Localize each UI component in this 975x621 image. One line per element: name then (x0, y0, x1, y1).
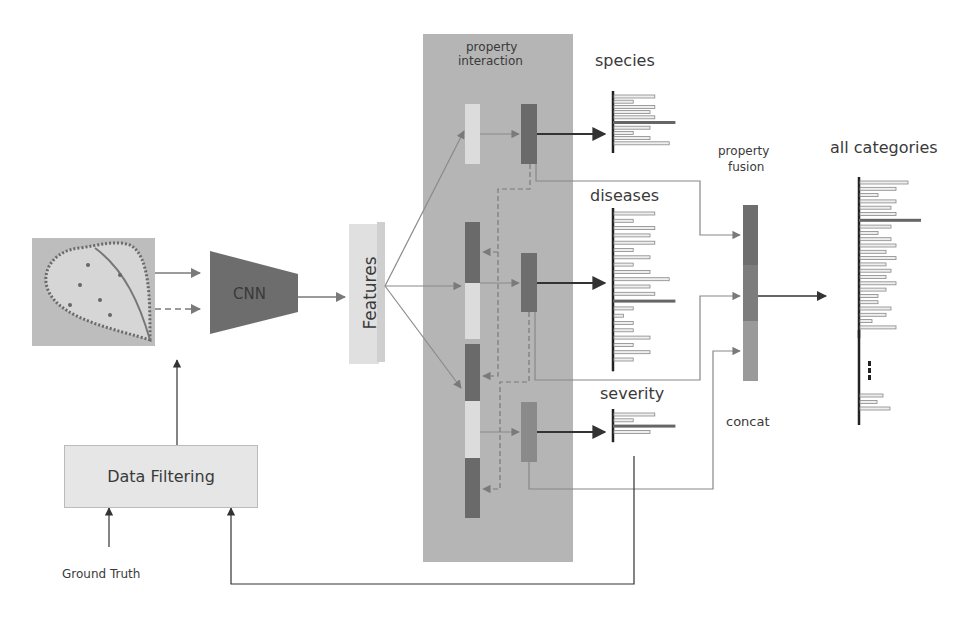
severity-context-block-2 (465, 458, 480, 518)
data-filtering-box: Data Filtering (64, 445, 258, 508)
disease-context-block-1 (465, 222, 480, 283)
property-interaction-label-1: property (466, 40, 517, 54)
diseases-output-block (521, 253, 537, 312)
severity-histogram (613, 409, 675, 442)
severity-output-block (521, 402, 537, 462)
species-input-block (465, 104, 480, 164)
species-histogram (613, 91, 675, 153)
all-categories-histogram (859, 177, 921, 425)
diseases-label: diseases (590, 186, 659, 205)
cnn-label: CNN (233, 285, 266, 303)
severity-input-block (465, 401, 480, 458)
data-filtering-label: Data Filtering (107, 467, 215, 486)
severity-label: severity (600, 384, 664, 403)
species-output-block (521, 104, 537, 164)
disease-input-block (465, 283, 480, 339)
property-fusion-label-1: property (718, 144, 769, 158)
property-interaction-panel (423, 34, 573, 562)
all-categories-label: all categories (830, 138, 938, 157)
species-label: species (595, 51, 655, 70)
property-interaction-label-2: interaction (458, 54, 523, 68)
features-label: Features (360, 243, 380, 343)
input-leaf-image (32, 238, 155, 346)
property-fusion-label-2: fusion (728, 160, 764, 174)
severity-context-block-1 (465, 344, 480, 401)
architecture-diagram: CNN Features property interaction specie… (0, 0, 975, 621)
diagram-canvas (0, 0, 975, 621)
property-fusion-block (743, 205, 758, 381)
diseases-histogram (613, 208, 675, 371)
concat-label: concat (726, 414, 770, 429)
ground-truth-label: Ground Truth (62, 567, 140, 581)
